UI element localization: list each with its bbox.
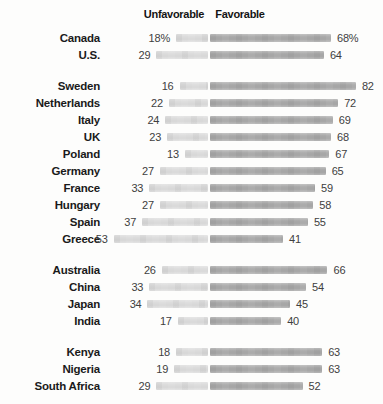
unfavorable-bar [176,34,208,42]
unfavorable-value: 37 [124,214,136,231]
unfavorable-bar [165,116,208,124]
country-row: UK2368 [0,129,383,146]
favorable-bar [210,116,333,124]
unfavorable-bar [149,283,208,291]
favorable-value: 45 [296,296,308,313]
country-label: Poland [63,146,100,163]
favorable-value: 65 [332,163,344,180]
unfavorable-value: 29 [139,47,151,64]
unfavorable-bar [180,82,208,90]
favorable-value: 67 [335,146,347,163]
favorable-value: 41 [289,231,301,248]
country-row: Italy2469 [0,112,383,129]
country-row: Hungary2758 [0,197,383,214]
unfavorable-bar [167,133,208,141]
unfavorable-value: 27 [142,163,154,180]
favorable-value: 58 [319,197,331,214]
favorable-bar [210,167,326,175]
favorable-value: 59 [321,180,333,197]
favorable-value: 66 [333,262,345,279]
country-label: Australia [53,262,100,279]
unfavorable-bar [114,235,208,243]
favorable-value: 72 [344,95,356,112]
unfavorable-value: 18 [158,344,170,361]
favorable-bar [210,382,303,390]
favorable-bar [210,184,315,192]
country-row: Netherlands2272 [0,95,383,112]
favorable-value: 68% [337,30,358,47]
unfavorable-bar [156,51,208,59]
country-label: U.S. [78,47,100,64]
country-label: Hungary [55,197,100,214]
unfavorable-value: 33 [131,279,143,296]
favorable-value: 63 [328,361,340,378]
country-label: Japan [68,296,100,313]
country-label: India [74,313,100,330]
favorable-value: 82 [362,78,374,95]
unfavorable-bar [156,382,208,390]
country-row: Japan3445 [0,296,383,313]
unfavorable-bar [160,201,208,209]
favorable-value: 40 [287,313,299,330]
unfavorable-value: 22 [151,95,163,112]
country-label: Sweden [58,78,100,95]
unfavorable-bar [149,184,208,192]
country-label: Greece [62,231,100,248]
country-row: Greece5341 [0,231,383,248]
country-row: France3359 [0,180,383,197]
unfavorable-bar [169,99,208,107]
favorable-bar [210,99,338,107]
favorable-bar [210,300,290,308]
favorable-column-header: Favorable [215,8,264,20]
unfavorable-bar [142,218,208,226]
unfavorable-bar [160,167,208,175]
country-row: China3354 [0,279,383,296]
favorable-bar [210,348,322,356]
favorable-bar [210,82,356,90]
unfavorable-bar [174,365,208,373]
favorable-value: 54 [312,279,324,296]
country-label: China [69,279,100,296]
favorable-value: 55 [314,214,326,231]
unfavorable-value: 19 [156,361,168,378]
unfavorable-bar [176,348,208,356]
unfavorable-value: 34 [130,296,142,313]
country-label: France [63,180,100,197]
favorable-value: 68 [337,129,349,146]
country-row: Nigeria1963 [0,361,383,378]
unfavorable-value: 23 [149,129,161,146]
unfavorable-value: 17 [160,313,172,330]
unfavorable-value: 16 [162,78,174,95]
country-row: Sweden1682 [0,78,383,95]
unfavorable-bar [178,317,208,325]
favorable-value: 63 [328,344,340,361]
favorable-value: 69 [339,112,351,129]
favorable-bar [210,266,327,274]
favorable-bar [210,51,324,59]
favorable-bar [210,201,313,209]
unfavorable-value: 29 [139,378,151,395]
country-row: Kenya1863 [0,344,383,361]
country-row: Spain3755 [0,214,383,231]
favorable-bar [210,317,281,325]
country-label: Spain [70,214,100,231]
country-label: Kenya [66,344,100,361]
country-label: Canada [60,30,100,47]
unfavorable-value: 24 [147,112,159,129]
country-label: South Africa [34,378,100,395]
favorable-bar [210,283,306,291]
country-row: Germany2765 [0,163,383,180]
unfavorable-bar [147,300,208,308]
favorability-chart: Unfavorable Favorable Canada18%68%U.S.29… [0,0,383,404]
unfavorable-bar [185,150,208,158]
unfavorable-column-header: Unfavorable [144,8,204,20]
unfavorable-value: 53 [96,231,108,248]
unfavorable-value: 33 [131,180,143,197]
favorable-bar [210,365,322,373]
unfavorable-value: 27 [142,197,154,214]
country-row: U.S.2964 [0,47,383,64]
unfavorable-value: 13 [167,146,179,163]
country-row: South Africa2952 [0,378,383,395]
country-row: India1740 [0,313,383,330]
favorable-bar [210,133,331,141]
